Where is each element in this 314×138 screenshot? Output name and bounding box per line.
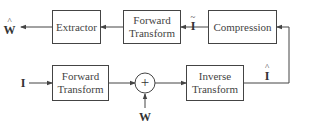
forward-transform-bottom-line2: Transform (57, 83, 103, 96)
i-input-label: I (18, 77, 28, 89)
i-hat-letter: I (265, 69, 270, 83)
forward-transform-top-line2: Transform (129, 27, 175, 40)
inverse-transform-block: Inverse Transform (186, 65, 244, 101)
forward-transform-top-line1: Forward (133, 14, 170, 27)
compression-block: Compression (208, 10, 277, 44)
inverse-transform-line1: Inverse (199, 70, 231, 83)
w-hat-output-label: ^ W (3, 18, 16, 36)
i-tilde-label: ~ I (188, 14, 198, 32)
extractor-label: Extractor (56, 21, 97, 34)
summing-node-plus: + (139, 75, 151, 90)
i-tilde-letter: I (191, 19, 196, 33)
w-input-label: W (138, 111, 152, 123)
compression-label: Compression (213, 21, 271, 34)
i-hat-label: ^ I (262, 64, 272, 82)
forward-transform-top-block: Forward Transform (123, 10, 181, 44)
inverse-transform-line2: Transform (192, 83, 238, 96)
forward-transform-bottom-block: Forward Transform (52, 65, 109, 101)
forward-transform-bottom-line1: Forward (62, 70, 99, 83)
extractor-block: Extractor (52, 10, 101, 44)
w-hat-letter: W (4, 23, 16, 37)
